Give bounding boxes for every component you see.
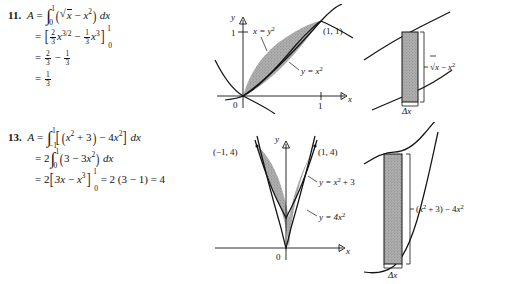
solution-block-13: 13. A = ∫1−1 [(x2 + 3) − 4x2] dx = 2∫10 …	[8, 130, 165, 193]
representative-rectangle	[384, 154, 402, 264]
fraction-denominator: 3	[64, 58, 70, 67]
coefficient-2: 2	[44, 152, 50, 164]
exponent-3: 3	[96, 29, 100, 38]
exponent-2: 2	[92, 150, 96, 159]
minus-sign: −	[54, 51, 60, 63]
equals-sign: =	[151, 173, 157, 185]
solution-13-line-1: 13. A = ∫1−1 [(x2 + 3) − 4x2] dx	[8, 130, 165, 151]
differential-dx: dx	[100, 9, 110, 21]
evaluated-value: 2 (3 − 1)	[110, 173, 148, 185]
strip-height-label: √x−x2	[430, 61, 455, 72]
integral-lower-limit: 0	[53, 163, 57, 168]
strip-height-label: (x2+3)−4x2	[416, 203, 464, 214]
bracket-open: [	[50, 172, 54, 189]
bracket-open: [	[56, 130, 60, 147]
origin-label: 0	[233, 100, 238, 110]
fraction-two-thirds: 23	[45, 50, 51, 66]
eval-lower-limit: 0	[94, 185, 98, 193]
fraction-denominator: 3	[50, 37, 56, 46]
representative-rectangle	[402, 32, 418, 102]
fraction-numerator: 2	[45, 50, 51, 58]
minus-sign: −	[72, 152, 78, 164]
solution-11-line-1: 11. A = ∫10 (x − x2) dx	[8, 8, 112, 29]
final-answer: 4	[160, 173, 166, 185]
constant-3: 3	[64, 152, 70, 164]
equals-sign: =	[35, 152, 41, 164]
eval-upper-limit: 1	[107, 25, 111, 33]
equals-sign: =	[35, 72, 41, 84]
integral-upper-limit: 1	[55, 149, 59, 154]
curve-label-y-equals-x-squared: y = x2	[300, 65, 323, 76]
exponent-three-halves: 3/2	[62, 29, 72, 38]
solution-11-line-2: = [23x3/2 − 13x3]10	[8, 29, 112, 50]
point-marker-right	[313, 144, 316, 147]
strip-width-label: Δx	[401, 106, 411, 114]
eval-upper-limit: 1	[93, 168, 97, 176]
solution-block-11: 11. A = ∫10 (x − x2) dx = [23x3/2 − 13x3…	[8, 8, 112, 92]
exponent-3: 3	[82, 171, 86, 180]
paren-close: )	[96, 152, 100, 168]
solution-13-line-2: = 2∫10 (3 − 3x2) dx	[8, 151, 165, 172]
paren-open: (	[55, 9, 59, 25]
fraction-one-third: 13	[84, 29, 90, 45]
y-axis-label: y	[230, 12, 235, 22]
height-bracket	[420, 32, 428, 102]
figure-13-region-graph: y x 0 (−1, 4) (1, 4) y = x2+ 3 y = 4x2	[205, 122, 357, 282]
fraction-one-third: 13	[64, 50, 70, 66]
curves	[215, 4, 353, 114]
differential-dx: dx	[131, 131, 141, 143]
fraction-numerator: 1	[84, 29, 90, 37]
equals-sign: =	[36, 9, 42, 21]
figure-13-strip: (x2+3)−4x2 Δx	[358, 122, 506, 282]
variable-A: A	[28, 131, 35, 143]
bracket-open: [	[45, 29, 49, 46]
paren-close: )	[93, 9, 97, 25]
bracket-close: ]	[86, 172, 90, 189]
integral-sign: ∫10	[46, 10, 51, 22]
bracket-close: ]	[100, 29, 104, 46]
bracket-close: ]	[123, 130, 127, 147]
equals-sign: =	[35, 173, 41, 185]
equals-sign: =	[37, 131, 43, 143]
figure-11-region-graph: y x 0 1 1 x = y2 y = x2 (1, 1)	[205, 4, 357, 114]
curve-label-y-equals-x-squared-plus-3: y = x2+ 3	[318, 176, 355, 187]
minus-sign: −	[74, 9, 80, 21]
constant-3: 3	[86, 131, 92, 143]
integral-upper-limit: 1	[51, 6, 55, 11]
x-axis-label: x	[345, 246, 350, 256]
fraction-numerator: 1	[45, 71, 51, 79]
exponent-2: 2	[71, 129, 75, 138]
y-axis-label: y	[274, 134, 279, 144]
leader-line-upper	[261, 37, 267, 51]
point-label-1-4: (1, 4)	[318, 147, 338, 157]
minus-sign: −	[68, 173, 74, 185]
fraction-denominator: 3	[45, 79, 51, 88]
fraction-denominator: 3	[45, 58, 51, 67]
equals-sign: =	[101, 173, 107, 185]
problem-number-13: 13.	[8, 131, 22, 143]
x-tick-label-1: 1	[318, 101, 323, 111]
paren-open: (	[60, 152, 64, 168]
curve-label-y-equals-4x-squared: y = 4x2	[318, 211, 345, 222]
radicand-x: x	[67, 9, 72, 22]
variable-A: A	[27, 9, 34, 21]
paren-close: )	[92, 131, 96, 147]
point-label-1-1: (1, 1)	[323, 26, 343, 36]
minus-sign: −	[99, 131, 105, 143]
equals-sign: =	[35, 30, 41, 42]
integral-sign: ∫10	[50, 153, 55, 165]
fraction-denominator: 3	[84, 37, 90, 46]
eval-lower-limit: 0	[108, 42, 112, 50]
fraction-numerator: 1	[64, 50, 70, 58]
leader-line-upper	[308, 176, 317, 182]
evaluation-bracket: [3x − x3]10	[49, 172, 97, 189]
integral-sign: ∫1−1	[47, 132, 52, 144]
curve-label-x-equals-y-squared: x = y2	[252, 25, 275, 36]
exponent-2: 2	[88, 7, 92, 16]
x-axis-label: x	[347, 94, 352, 104]
solution-13-line-3: = 2[3x − x3]10 = 2 (3 − 1) = 4	[8, 172, 165, 193]
square-root-icon: x	[60, 9, 72, 22]
equals-sign: =	[35, 51, 41, 63]
plus-sign: +	[77, 131, 83, 143]
fraction-numerator: 2	[50, 29, 56, 37]
